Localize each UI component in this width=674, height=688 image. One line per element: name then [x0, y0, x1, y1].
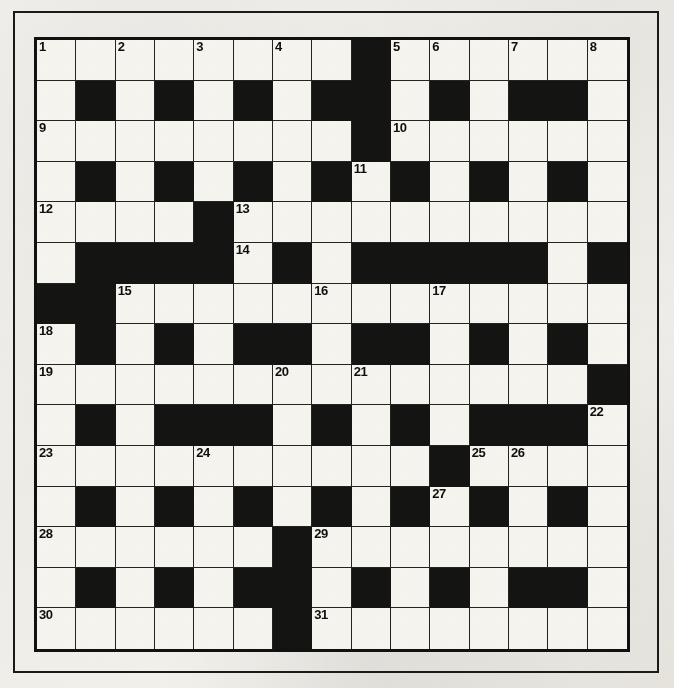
crossword-cell[interactable] — [234, 40, 273, 81]
crossword-cell[interactable] — [273, 81, 312, 122]
crossword-cell[interactable] — [312, 121, 351, 162]
crossword-cell[interactable] — [37, 243, 76, 284]
crossword-cell[interactable] — [76, 121, 115, 162]
crossword-cell[interactable] — [548, 608, 587, 649]
crossword-cell[interactable] — [116, 446, 155, 487]
crossword-cell[interactable] — [116, 608, 155, 649]
crossword-cell-29[interactable]: 29 — [312, 527, 351, 568]
crossword-cell[interactable] — [194, 365, 233, 406]
crossword-cell[interactable] — [430, 162, 469, 203]
crossword-cell[interactable] — [391, 608, 430, 649]
crossword-cell[interactable] — [352, 405, 391, 446]
crossword-cell-9[interactable]: 9 — [37, 121, 76, 162]
crossword-cell[interactable] — [273, 121, 312, 162]
crossword-cell[interactable] — [116, 487, 155, 528]
crossword-cell[interactable] — [470, 81, 509, 122]
crossword-cell-10[interactable]: 10 — [391, 121, 430, 162]
crossword-cell[interactable] — [155, 284, 194, 325]
crossword-cell[interactable] — [470, 527, 509, 568]
crossword-cell[interactable] — [312, 40, 351, 81]
crossword-cell-18[interactable]: 18 — [37, 324, 76, 365]
crossword-cell[interactable] — [116, 405, 155, 446]
crossword-cell-23[interactable]: 23 — [37, 446, 76, 487]
crossword-cell[interactable] — [273, 446, 312, 487]
crossword-cell[interactable] — [430, 202, 469, 243]
crossword-cell[interactable] — [37, 487, 76, 528]
crossword-cell[interactable] — [470, 365, 509, 406]
crossword-cell[interactable] — [588, 568, 627, 609]
crossword-cell-28[interactable]: 28 — [37, 527, 76, 568]
crossword-cell[interactable] — [116, 121, 155, 162]
crossword-cell[interactable] — [588, 527, 627, 568]
crossword-cell-31[interactable]: 31 — [312, 608, 351, 649]
crossword-cell[interactable] — [509, 365, 548, 406]
crossword-cell[interactable] — [76, 608, 115, 649]
crossword-cell[interactable] — [312, 202, 351, 243]
crossword-cell[interactable] — [155, 608, 194, 649]
crossword-cell[interactable] — [509, 284, 548, 325]
crossword-cell[interactable] — [548, 202, 587, 243]
crossword-cell[interactable] — [194, 568, 233, 609]
crossword-cell[interactable] — [116, 568, 155, 609]
crossword-cell-19[interactable]: 19 — [37, 365, 76, 406]
crossword-cell[interactable] — [352, 446, 391, 487]
crossword-cell[interactable] — [194, 487, 233, 528]
crossword-cell[interactable] — [194, 162, 233, 203]
crossword-cell[interactable] — [588, 162, 627, 203]
crossword-cell[interactable] — [470, 284, 509, 325]
crossword-cell[interactable] — [116, 162, 155, 203]
crossword-cell[interactable] — [548, 446, 587, 487]
crossword-grid[interactable]: 1234567891011121314151617181920212223242… — [37, 40, 627, 649]
crossword-cell-25[interactable]: 25 — [470, 446, 509, 487]
crossword-cell[interactable] — [509, 202, 548, 243]
crossword-cell[interactable] — [116, 527, 155, 568]
crossword-cell[interactable] — [470, 568, 509, 609]
crossword-cell[interactable] — [391, 81, 430, 122]
crossword-cell[interactable] — [273, 405, 312, 446]
crossword-cell[interactable] — [509, 527, 548, 568]
crossword-cell[interactable] — [312, 243, 351, 284]
crossword-cell-8[interactable]: 8 — [588, 40, 627, 81]
crossword-cell[interactable] — [76, 202, 115, 243]
crossword-cell[interactable] — [588, 81, 627, 122]
crossword-grid-container[interactable]: 1234567891011121314151617181920212223242… — [34, 37, 630, 652]
crossword-cell[interactable] — [312, 365, 351, 406]
crossword-cell[interactable] — [194, 121, 233, 162]
crossword-cell[interactable] — [194, 608, 233, 649]
crossword-cell-22[interactable]: 22 — [588, 405, 627, 446]
crossword-cell-11[interactable]: 11 — [352, 162, 391, 203]
crossword-cell[interactable] — [273, 162, 312, 203]
crossword-cell[interactable] — [76, 40, 115, 81]
crossword-cell[interactable] — [391, 568, 430, 609]
crossword-cell[interactable] — [548, 365, 587, 406]
crossword-cell[interactable] — [430, 365, 469, 406]
crossword-cell[interactable] — [509, 324, 548, 365]
crossword-cell[interactable] — [430, 608, 469, 649]
crossword-cell-3[interactable]: 3 — [194, 40, 233, 81]
crossword-cell[interactable] — [588, 608, 627, 649]
crossword-cell[interactable] — [509, 121, 548, 162]
crossword-cell-15[interactable]: 15 — [116, 284, 155, 325]
crossword-cell[interactable] — [352, 284, 391, 325]
crossword-cell-24[interactable]: 24 — [194, 446, 233, 487]
crossword-cell[interactable] — [76, 365, 115, 406]
crossword-cell-27[interactable]: 27 — [430, 487, 469, 528]
crossword-cell-21[interactable]: 21 — [352, 365, 391, 406]
crossword-cell[interactable] — [470, 121, 509, 162]
crossword-cell[interactable] — [312, 446, 351, 487]
crossword-cell[interactable] — [234, 121, 273, 162]
crossword-cell[interactable] — [116, 202, 155, 243]
crossword-cell[interactable] — [155, 446, 194, 487]
crossword-cell[interactable] — [116, 324, 155, 365]
crossword-cell-20[interactable]: 20 — [273, 365, 312, 406]
crossword-cell[interactable] — [470, 608, 509, 649]
crossword-cell[interactable] — [155, 202, 194, 243]
crossword-cell[interactable] — [194, 527, 233, 568]
crossword-cell[interactable] — [391, 446, 430, 487]
crossword-cell[interactable] — [312, 568, 351, 609]
crossword-cell-7[interactable]: 7 — [509, 40, 548, 81]
crossword-cell[interactable] — [548, 284, 587, 325]
crossword-cell[interactable] — [273, 284, 312, 325]
crossword-cell[interactable] — [155, 121, 194, 162]
crossword-cell[interactable] — [273, 487, 312, 528]
